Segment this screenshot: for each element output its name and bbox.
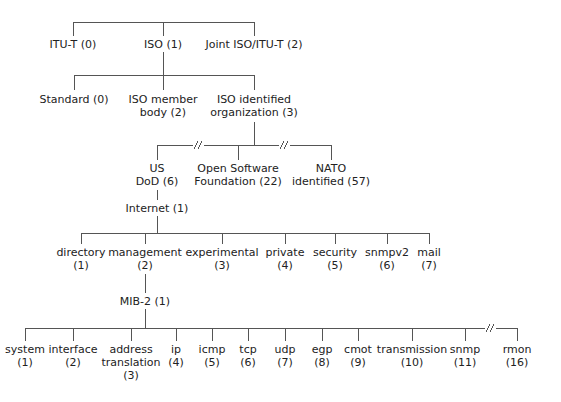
node-label: (8) [312, 356, 333, 369]
node-nato-identified: NATO identified (57) [292, 162, 370, 188]
node-label: ip [168, 343, 184, 356]
node-mib-2: MIB-2 (1) [120, 295, 170, 308]
node-open-software-foundation: Open Software Foundation (22) [194, 162, 281, 188]
node-label: identified (57) [292, 175, 370, 188]
tree-connectors [0, 0, 561, 402]
node-label: (9) [344, 356, 372, 369]
node-label: udp [275, 343, 296, 356]
node-udp: udp (7) [275, 343, 296, 369]
node-label: mail [417, 246, 441, 259]
node-directory: directory (1) [56, 246, 105, 272]
node-tcp: tcp (6) [239, 343, 256, 369]
node-label: address [101, 343, 160, 356]
node-iso-member-body: ISO member body (2) [129, 93, 198, 119]
node-cmot: cmot (9) [344, 343, 372, 369]
node-label: (16) [503, 356, 532, 369]
node-ip: ip (4) [168, 343, 184, 369]
node-label: (1) [56, 259, 105, 272]
node-label: MIB-2 (1) [120, 295, 170, 308]
node-security: security (5) [313, 246, 357, 272]
node-label: snmpv2 [365, 246, 409, 259]
node-label: snmp [450, 343, 480, 356]
node-experimental: experimental (3) [186, 246, 259, 272]
node-label: Foundation (22) [194, 175, 281, 188]
node-label: (7) [275, 356, 296, 369]
node-label: Internet (1) [126, 202, 189, 215]
node-iso-identified-organization: ISO identified organization (3) [210, 93, 297, 119]
node-snmp: snmp (11) [450, 343, 480, 369]
node-label: (6) [239, 356, 256, 369]
node-egp: egp (8) [312, 343, 333, 369]
node-label: ISO (1) [144, 38, 182, 51]
node-management: management (2) [108, 246, 182, 272]
node-label: Standard (0) [39, 93, 108, 106]
node-label: ITU-T (0) [50, 38, 97, 51]
node-label: icmp [199, 343, 226, 356]
node-label: body (2) [129, 106, 198, 119]
node-label: (5) [313, 259, 357, 272]
node-internet: Internet (1) [126, 202, 189, 215]
node-label: ISO member [129, 93, 198, 106]
node-label: (10) [377, 356, 447, 369]
node-label: cmot [344, 343, 372, 356]
node-us-dod: US DoD (6) [136, 162, 179, 188]
node-label: directory [56, 246, 105, 259]
node-label: Joint ISO/ITU-T (2) [205, 38, 302, 51]
node-rmon: rmon (16) [503, 343, 532, 369]
node-label: (2) [48, 356, 97, 369]
node-label: NATO [292, 162, 370, 175]
node-address-translation: address translation (3) [101, 343, 160, 382]
node-label: (11) [450, 356, 480, 369]
node-label: DoD (6) [136, 175, 179, 188]
node-label: experimental [186, 246, 259, 259]
node-label: transmission [377, 343, 447, 356]
node-label: US [136, 162, 179, 175]
node-transmission: transmission (10) [377, 343, 447, 369]
break-marker-right [279, 141, 290, 149]
node-system: system (1) [5, 343, 45, 369]
node-label: tcp [239, 343, 256, 356]
node-label: (4) [168, 356, 184, 369]
node-label: (3) [186, 259, 259, 272]
oid-tree-diagram: ITU-T (0) ISO (1) Joint ISO/ITU-T (2) St… [0, 0, 561, 402]
node-label: (1) [5, 356, 45, 369]
node-label: system [5, 343, 45, 356]
node-label: (5) [199, 356, 226, 369]
node-label: (6) [365, 259, 409, 272]
node-label: Open Software [194, 162, 281, 175]
break-marker-bottom [485, 324, 496, 332]
node-label: rmon [503, 343, 532, 356]
node-joint-iso-itu-t: Joint ISO/ITU-T (2) [205, 38, 302, 51]
node-iso: ISO (1) [144, 38, 182, 51]
node-label: ISO identified [210, 93, 297, 106]
node-label: (7) [417, 259, 441, 272]
node-label: (3) [101, 369, 160, 382]
node-mail: mail (7) [417, 246, 441, 272]
node-label: (2) [108, 259, 182, 272]
node-icmp: icmp (5) [199, 343, 226, 369]
node-snmpv2: snmpv2 (6) [365, 246, 409, 272]
node-label: private [266, 246, 305, 259]
node-standard: Standard (0) [39, 93, 108, 106]
node-label: security [313, 246, 357, 259]
node-label: organization (3) [210, 106, 297, 119]
node-label: egp [312, 343, 333, 356]
node-label: translation [101, 356, 160, 369]
node-label: management [108, 246, 182, 259]
node-interface: interface (2) [48, 343, 97, 369]
node-label: (4) [266, 259, 305, 272]
break-marker-left [193, 141, 204, 149]
node-private: private (4) [266, 246, 305, 272]
node-label: interface [48, 343, 97, 356]
node-itu-t: ITU-T (0) [50, 38, 97, 51]
